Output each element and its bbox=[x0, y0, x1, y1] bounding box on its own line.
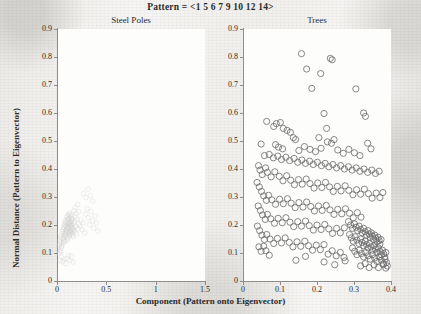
y-tickmark bbox=[240, 29, 243, 30]
y-tick-label: 0.8 bbox=[211, 52, 238, 61]
y-tick-label: 0 bbox=[211, 276, 238, 285]
y-tickmark bbox=[54, 85, 57, 86]
y-tickmark bbox=[54, 225, 57, 226]
y-tick-label: 0.6 bbox=[211, 108, 238, 117]
x-tick-label: 1.5 bbox=[191, 285, 219, 294]
figure-two-panel-scatter: Pattern = <1 5 6 7 9 10 12 14> Normal Di… bbox=[0, 0, 421, 314]
y-tick-label: 0.5 bbox=[25, 136, 52, 145]
y-tick-label: 0.1 bbox=[25, 248, 52, 257]
y-tick-label: 0.2 bbox=[211, 220, 238, 229]
y-tickmark bbox=[54, 169, 57, 170]
x-tick-label: 0.3 bbox=[340, 285, 368, 294]
y-tick-label: 0.9 bbox=[211, 24, 238, 33]
y-tick-label: 0.3 bbox=[211, 192, 238, 201]
x-tick-label: 0.2 bbox=[303, 285, 331, 294]
left-panel-scatter-markers bbox=[57, 29, 206, 282]
x-axis-label: Component (Pattern onto Eigenvector) bbox=[0, 296, 421, 306]
x-tick-label: 0 bbox=[229, 285, 257, 294]
panel-title-trees: Trees bbox=[243, 15, 391, 25]
y-tickmark bbox=[240, 253, 243, 254]
y-tick-label: 0.3 bbox=[25, 192, 52, 201]
y-tick-label: 0.8 bbox=[25, 52, 52, 61]
y-tickmark bbox=[240, 197, 243, 198]
x-tick-label: 0.4 bbox=[377, 285, 405, 294]
y-tick-label: 0.4 bbox=[211, 164, 238, 173]
figure-suptitle: Pattern = <1 5 6 7 9 10 12 14> bbox=[0, 2, 421, 12]
x-tick-label: 0.5 bbox=[92, 285, 120, 294]
y-tickmark bbox=[240, 113, 243, 114]
y-tick-label: 0.5 bbox=[211, 136, 238, 145]
y-tick-label: 0 bbox=[25, 276, 52, 285]
y-tickmark bbox=[240, 57, 243, 58]
y-tickmark bbox=[54, 253, 57, 254]
panel-title-steel-poles: Steel Poles bbox=[57, 15, 205, 25]
y-tickmark bbox=[240, 225, 243, 226]
y-tick-label: 0.2 bbox=[25, 220, 52, 229]
y-tick-label: 0.9 bbox=[25, 24, 52, 33]
x-tick-label: 0.1 bbox=[266, 285, 294, 294]
y-tickmark bbox=[240, 141, 243, 142]
x-tick-label: 1 bbox=[142, 285, 170, 294]
right-panel-scatter-markers bbox=[243, 29, 392, 282]
y-tick-label: 0.6 bbox=[25, 108, 52, 117]
y-axis-label: Normal Distance (Pattern to Eigenvector) bbox=[11, 108, 21, 268]
y-tick-label: 0.7 bbox=[211, 80, 238, 89]
y-tickmark bbox=[54, 29, 57, 30]
y-tickmark bbox=[54, 57, 57, 58]
x-tick-label: 0 bbox=[43, 285, 71, 294]
y-tick-label: 0.4 bbox=[25, 164, 52, 173]
y-tickmark bbox=[240, 85, 243, 86]
y-tick-label: 0.1 bbox=[211, 248, 238, 257]
y-tickmark bbox=[54, 113, 57, 114]
y-tickmark bbox=[54, 197, 57, 198]
y-tickmark bbox=[54, 141, 57, 142]
y-tickmark bbox=[240, 169, 243, 170]
y-tick-label: 0.7 bbox=[25, 80, 52, 89]
